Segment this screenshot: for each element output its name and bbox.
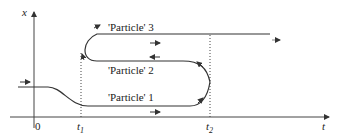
origin-label: 0 [35, 120, 41, 132]
diagram-svg: x t 0 t1 t2 'Particle' 3 'Particle' 2 'P… [0, 0, 337, 138]
t-axis-label: t [322, 120, 326, 132]
arrow-icon [197, 62, 203, 67]
worldline-diagram: x t 0 t1 t2 'Particle' 3 'Particle' 2 'P… [0, 0, 337, 138]
particle-3-label: 'Particle' 3 [108, 21, 154, 33]
t2-label: t2 [206, 120, 213, 135]
x-axis-label: x [21, 6, 27, 18]
particle-1-label: 'Particle' 1 [108, 91, 154, 103]
arrow-icon [94, 25, 100, 28]
t1-label: t1 [77, 120, 84, 135]
arrow-icon [82, 54, 84, 60]
particle-2-label: 'Particle' 2 [108, 64, 154, 76]
